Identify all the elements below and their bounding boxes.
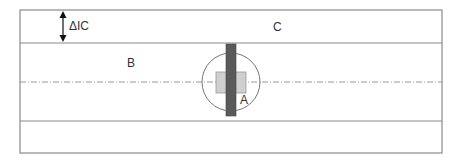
component-a-label: A bbox=[240, 94, 248, 106]
arrow-up-icon bbox=[60, 11, 67, 18]
region-c-label: C bbox=[273, 21, 282, 33]
region-b-label: B bbox=[127, 57, 135, 69]
arrow-down-icon bbox=[60, 35, 67, 42]
delta-label: ΔIC bbox=[69, 20, 89, 32]
vertical-bar bbox=[226, 44, 236, 116]
